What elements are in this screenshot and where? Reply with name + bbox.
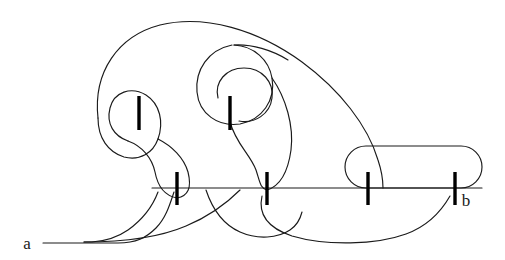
endpoint-label-b: b <box>462 191 471 210</box>
endpoint-label-a: a <box>23 234 31 253</box>
knot-diagram-canvas: a b <box>0 0 505 260</box>
knot-tangle-figure: a b <box>0 0 505 260</box>
